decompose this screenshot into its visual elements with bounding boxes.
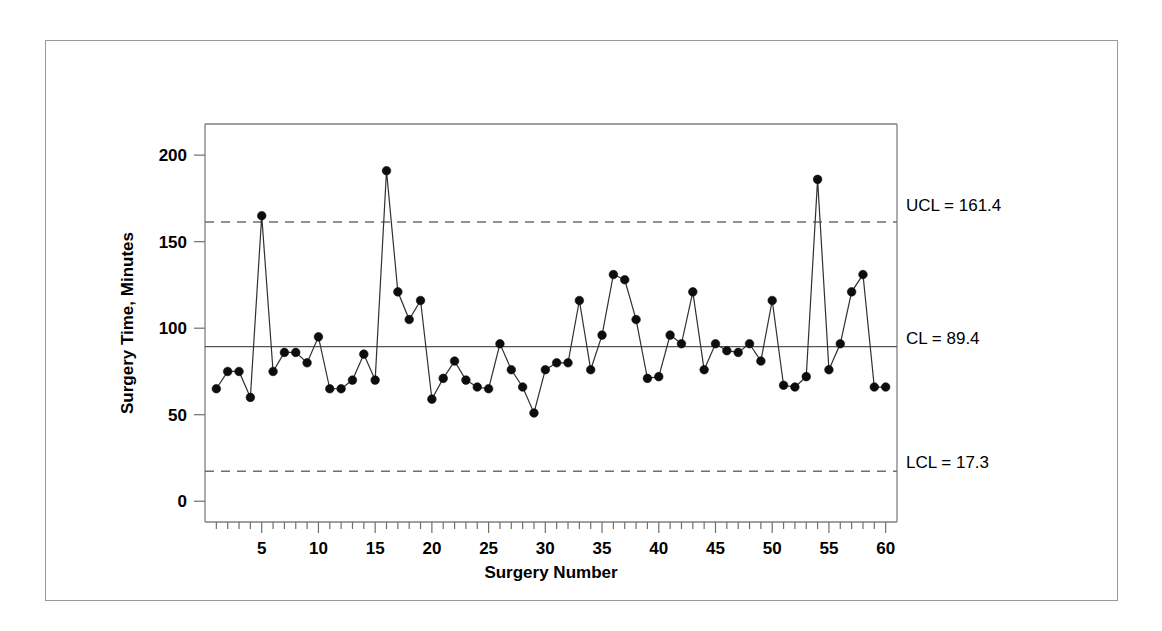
data-point [791,383,800,392]
data-point [462,376,471,385]
y-tick-label: 150 [159,233,187,252]
data-point [473,383,482,392]
data-point [575,296,584,305]
data-point [620,275,629,284]
x-tick-label: 45 [706,539,725,558]
x-axis-title: Surgery Number [484,563,618,582]
data-point [360,350,369,359]
data-point [416,296,425,305]
data-point [235,367,244,376]
data-point [382,166,391,175]
data-point [847,288,856,297]
data-point [711,339,720,348]
data-point [632,315,641,324]
data-point [598,331,607,340]
data-point [870,383,879,392]
control-limit-lines [205,222,897,471]
data-point [269,367,278,376]
data-point [723,346,732,355]
series-polyline [216,171,885,413]
y-axis-title: Surgery Time, Minutes [118,232,137,414]
figure-root: 050100150200 51015202530354045505560 UCL… [0,0,1162,631]
x-tick-label: 50 [763,539,782,558]
x-tick-label: 20 [422,539,441,558]
y-tick-label: 50 [168,406,187,425]
data-point [212,384,221,393]
x-tick-label: 55 [819,539,838,558]
data-point [246,393,255,402]
data-point [825,365,834,374]
x-tick-label: 60 [876,539,895,558]
data-point [609,270,618,279]
data-point [484,384,493,393]
y-axis: 050100150200 [159,146,205,511]
data-point [745,339,754,348]
y-tick-label: 200 [159,146,187,165]
data-point [223,367,232,376]
x-tick-label: 40 [649,539,668,558]
data-point [802,372,811,381]
data-point [666,331,675,340]
data-point [757,357,766,366]
control-chart-area: 050100150200 51015202530354045505560 UCL… [0,0,1162,631]
data-point [779,381,788,390]
data-point [654,372,663,381]
data-point [496,339,505,348]
data-point [325,384,334,393]
data-point [314,333,323,342]
data-point [303,359,312,368]
data-series [212,166,890,417]
data-point [257,211,266,220]
data-point [337,384,346,393]
x-tick-label: 15 [366,539,385,558]
data-point [348,376,357,385]
data-point [689,288,698,297]
data-point [405,315,414,324]
data-point [677,339,686,348]
data-point [859,270,868,279]
data-point [371,376,380,385]
data-point [428,395,437,404]
data-point [439,374,448,383]
cl-label: CL = 89.4 [906,329,980,348]
data-point [586,365,595,374]
data-point [530,409,539,418]
x-tick-label: 5 [257,539,266,558]
x-tick-label: 25 [479,539,498,558]
control-chart-svg: 050100150200 51015202530354045505560 UCL… [0,0,1162,631]
data-point [881,383,890,392]
x-axis: 51015202530354045505560 [216,522,895,558]
data-point [768,296,777,305]
data-point [450,357,459,366]
data-point [643,374,652,383]
data-point [507,365,516,374]
plot-frame [205,124,897,522]
ucl-label: UCL = 161.4 [906,196,1001,215]
data-point [836,339,845,348]
data-point [518,383,527,392]
y-tick-label: 100 [159,319,187,338]
data-point [291,348,300,357]
y-tick-label: 0 [178,492,187,511]
data-point [564,359,573,368]
data-point [700,365,709,374]
data-point [552,359,561,368]
x-tick-label: 35 [593,539,612,558]
data-point [813,175,822,184]
data-point [394,288,403,297]
data-point [280,348,289,357]
x-tick-label: 30 [536,539,555,558]
lcl-label: LCL = 17.3 [906,453,989,472]
data-point [541,365,550,374]
x-tick-label: 10 [309,539,328,558]
data-point [734,348,743,357]
